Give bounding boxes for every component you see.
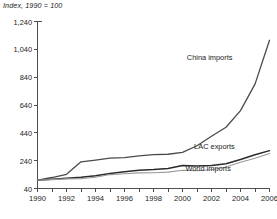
- y-axis-tick-label: 840: [0, 73, 32, 82]
- y-axis-tick-label: 1,240: [0, 17, 32, 26]
- axis-spines: [38, 22, 270, 189]
- x-axis-tick-label: 1994: [87, 194, 104, 203]
- y-axis-tick-label: 440: [0, 128, 32, 137]
- series-line-china-imports: [38, 40, 270, 180]
- x-axis-tick-label: 2000: [174, 194, 191, 203]
- chart-plot-area: [0, 0, 277, 219]
- y-axis-tick-label: 640: [0, 101, 32, 110]
- x-axis-tick-label: 1996: [116, 194, 133, 203]
- y-axis-tick-label: 240: [0, 156, 32, 165]
- series-label-china-imports: China imports: [187, 53, 233, 62]
- x-axis-tick-label: 2002: [203, 194, 220, 203]
- series-label-lac-exports: LAC exports: [194, 142, 235, 151]
- series-label-world-imports: World imports: [185, 164, 230, 173]
- chart-container: Index, 1990 = 100 402404406408401,0401,2…: [0, 0, 277, 219]
- x-axis-tick-label: 1992: [58, 194, 75, 203]
- y-axis-tick-label: 40: [0, 184, 32, 193]
- y-axis-tick-label: 1,040: [0, 45, 32, 54]
- x-axis-tick-label: 2006: [261, 194, 277, 203]
- x-axis-tick-label: 1998: [145, 194, 162, 203]
- series-line-world-imports: [38, 153, 270, 180]
- x-axis-tick-label: 1990: [29, 194, 46, 203]
- x-axis-tick-label: 2004: [232, 194, 249, 203]
